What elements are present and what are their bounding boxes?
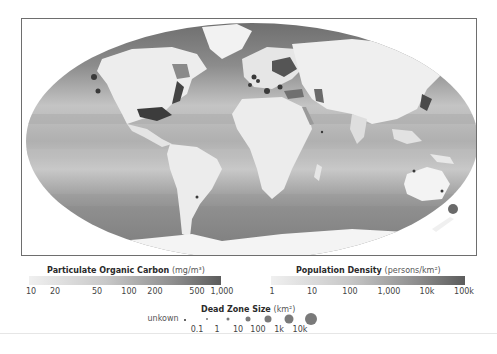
poc-tick-2: 50 — [92, 287, 102, 296]
poc-title: Particulate Organic Carbon — [47, 266, 169, 275]
dz-title: Dead Zone Size — [201, 305, 271, 314]
poc-tick-1: 20 — [50, 287, 60, 296]
pop-color-bar — [271, 276, 465, 285]
world-map-frame — [21, 18, 477, 256]
pop-tick-1: 10 — [307, 287, 317, 296]
pop-tick-5: 100k — [454, 287, 474, 296]
pop-title: Population Density — [296, 266, 382, 275]
dz-size-dot-5 — [305, 313, 317, 325]
dz-unit: (km²) — [274, 305, 296, 314]
poc-tick-4: 200 — [147, 287, 162, 296]
pop-legend-title: Population Density (persons/km²) — [296, 266, 441, 275]
dead-zone-new-zealand — [448, 204, 458, 214]
dz-size-dot-2 — [246, 317, 251, 322]
dz-size-dot-4 — [285, 315, 294, 324]
dz-size-dot-1 — [227, 318, 230, 321]
pop-unit: (persons/km²) — [385, 266, 441, 275]
poc-color-bar — [29, 276, 221, 285]
poc-unit: (mg/m³) — [172, 266, 205, 275]
pop-tick-0: 1 — [269, 287, 274, 296]
bottom-divider — [0, 333, 497, 334]
pop-tick-4: 10k — [420, 287, 435, 296]
poc-tick-0: 10 — [26, 287, 36, 296]
world-map — [22, 19, 477, 256]
dz-unknown-label: unkown — [148, 314, 179, 323]
poc-legend-title: Particulate Organic Carbon (mg/m³) — [47, 266, 205, 275]
new-zealand — [432, 217, 454, 232]
pop-tick-2: 100 — [342, 287, 357, 296]
pop-tick-3: 1,000 — [378, 287, 401, 296]
poc-tick-3: 100 — [121, 287, 136, 296]
poc-tick-6: 1,000 — [211, 287, 234, 296]
dz-size-dot-0 — [206, 318, 208, 320]
dz-dot-unknown — [184, 319, 186, 321]
poc-tick-5: 500 — [189, 287, 204, 296]
dz-size-dot-3 — [265, 316, 272, 323]
dz-legend-title: Dead Zone Size (km²) — [201, 305, 295, 314]
